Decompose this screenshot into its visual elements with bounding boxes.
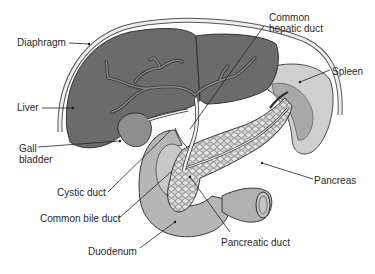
label-pancreatic-duct: Pancreatic duct xyxy=(221,237,290,248)
label-common-hepatic-duct-line1: Common xyxy=(269,12,310,23)
label-common-hepatic-duct-line2: hepatic duct xyxy=(269,23,323,34)
label-liver: Liver xyxy=(17,102,39,113)
label-diaphragm: Diaphragm xyxy=(17,37,66,48)
label-duodenum: Duodenum xyxy=(88,246,137,257)
liver-left-lobe xyxy=(196,34,278,104)
label-cystic-duct: Cystic duct xyxy=(57,187,106,198)
label-pancreas: Pancreas xyxy=(314,175,356,186)
gallbladder xyxy=(118,113,152,147)
label-spleen: Spleen xyxy=(332,66,363,77)
jejunum-segment xyxy=(222,188,272,222)
label-gallbladder-line2: bladder xyxy=(19,154,52,165)
label-common-bile-duct: Common bile duct xyxy=(40,213,121,224)
label-gallbladder-line1: Gall xyxy=(19,143,37,154)
